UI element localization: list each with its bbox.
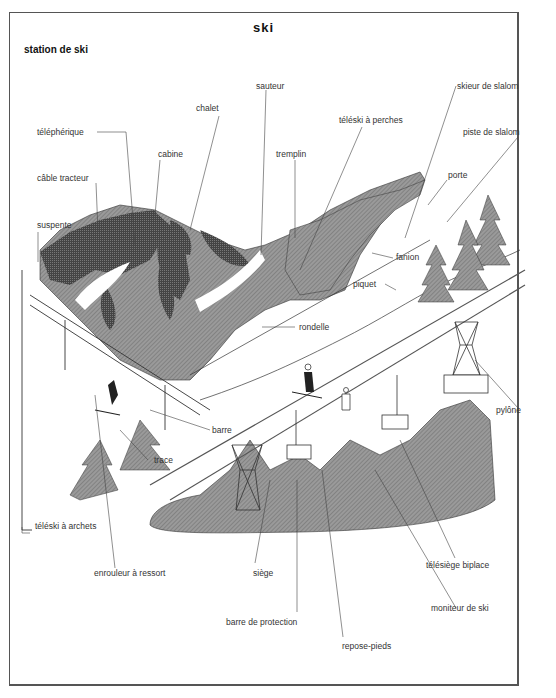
label-moniteur-de-ski: moniteur de ski bbox=[431, 603, 489, 613]
label-trace: trace bbox=[154, 455, 173, 465]
label-suspente: suspente bbox=[37, 220, 72, 230]
leader-lines bbox=[22, 86, 518, 637]
pylon-right bbox=[444, 322, 488, 393]
label-enrouleur-a-ressort: enrouleur à ressort bbox=[94, 568, 165, 578]
label-porte: porte bbox=[448, 170, 467, 180]
label-teleski-a-perches: téléski à perches bbox=[339, 115, 403, 125]
label-barre: barre bbox=[212, 425, 232, 435]
label-tremplin: tremplin bbox=[276, 149, 306, 159]
foreground-forest bbox=[150, 400, 495, 533]
label-rondelle: rondelle bbox=[299, 322, 329, 332]
label-pylone: pylône bbox=[496, 405, 521, 415]
label-piquet: piquet bbox=[353, 279, 376, 289]
label-cabine: cabine bbox=[158, 149, 183, 159]
label-chalet: chalet bbox=[196, 103, 219, 113]
label-telesiege-biplace: télésiège biplace bbox=[426, 560, 489, 570]
ski-resort-illustration bbox=[0, 0, 556, 698]
label-piste-de-slalom: piste de slalom bbox=[463, 127, 520, 137]
label-teleski-a-archets: téléski à archets bbox=[35, 521, 96, 531]
label-sauteur: sauteur bbox=[256, 81, 284, 91]
label-cable-tracteur: câble tracteur bbox=[37, 173, 89, 183]
label-telepherique: téléphérique bbox=[37, 127, 84, 137]
label-skieur-de-slalom: skieur de slalom bbox=[457, 81, 518, 91]
label-fanion: fanion bbox=[396, 252, 419, 262]
label-siege: siège bbox=[253, 568, 273, 578]
label-barre-de-protection: barre de protection bbox=[226, 617, 297, 627]
label-repose-pieds: repose-pieds bbox=[342, 641, 391, 651]
